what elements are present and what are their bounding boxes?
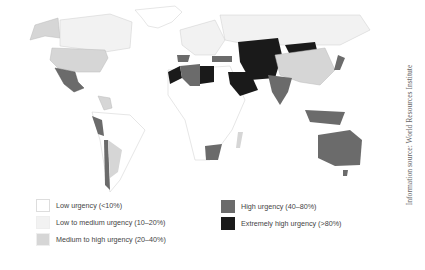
region-south-africa <box>205 144 222 160</box>
legend-item-low: Low urgency (<10%) <box>36 199 122 212</box>
legend-swatch <box>221 217 235 230</box>
region-usa <box>50 48 108 72</box>
legend-swatch <box>36 199 50 212</box>
legend-item-medium-high: Medium to high urgency (20–40%) <box>36 233 166 246</box>
legend-label: Low urgency (<10%) <box>56 201 122 210</box>
region-india <box>268 75 292 105</box>
region-libya <box>200 66 214 84</box>
region-russia <box>220 15 370 45</box>
region-japan <box>334 55 345 70</box>
legend-label: Medium to high urgency (20–40%) <box>56 235 166 244</box>
legend-label: Low to medium urgency (10–20%) <box>56 218 165 227</box>
region-canada <box>60 14 132 52</box>
legend-swatch <box>221 200 235 213</box>
legend-label: High urgency (40–80%) <box>241 202 317 211</box>
source-credit: Information source: World Resources Inst… <box>405 65 414 206</box>
legend-item-high: High urgency (40–80%) <box>221 200 317 213</box>
region-australia <box>318 130 362 166</box>
legend-item-low-medium: Low to medium urgency (10–20%) <box>36 216 165 229</box>
region-madagascar <box>236 132 243 148</box>
region-alaska <box>30 18 60 40</box>
world-map <box>0 0 400 200</box>
region-central-america <box>98 96 112 110</box>
region-greenland <box>135 6 182 28</box>
legend-label: Extremely high urgency (>80%) <box>241 219 341 228</box>
region-indonesia <box>305 110 345 125</box>
legend-swatch <box>36 233 50 246</box>
legend-item-extremely-high: Extremely high urgency (>80%) <box>221 217 341 230</box>
legend-swatch <box>36 216 50 229</box>
region-spain <box>177 55 190 62</box>
region-tasmania <box>343 170 348 176</box>
region-europe <box>180 20 225 55</box>
region-turkey <box>212 56 232 62</box>
